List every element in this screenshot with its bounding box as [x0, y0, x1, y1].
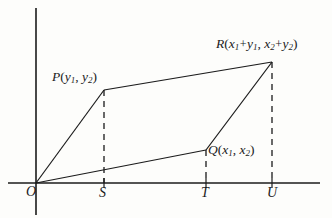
- figure-canvas: [0, 0, 332, 218]
- point-label-r: R(x1+y1, x2+y2) (x₁+y₁, x₂+y₂): [216, 37, 298, 52]
- axis-label-origin: O: [26, 185, 36, 199]
- segment-p-r: [104, 62, 272, 90]
- geometry-figure: O S T U P((y₁, y₂)y1, y2) Q((x₁, x₂)x1, …: [0, 0, 332, 218]
- point-label-r-name: R: [216, 36, 224, 51]
- point-label-p-name: P: [52, 69, 60, 84]
- segment-o-p: [36, 90, 104, 183]
- segment-q-r: [206, 62, 272, 150]
- point-label-q-name: Q: [208, 142, 218, 157]
- axis-label-t: T: [201, 186, 209, 200]
- point-label-q: Q((x₁, x₂)x1, x2): [208, 143, 255, 158]
- segment-o-q: [36, 150, 206, 183]
- axis-label-u: U: [267, 186, 277, 200]
- point-label-p: P((y₁, y₂)y1, y2): [52, 70, 97, 85]
- axis-label-s: S: [99, 186, 106, 200]
